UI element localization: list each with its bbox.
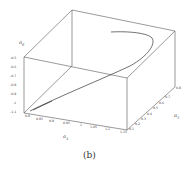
y-axis-label: a5 [174,112,180,120]
svg-text:0.9: 0.9 [49,119,54,123]
z-axis-label: a6 [19,39,25,47]
svg-text:0.6: 0.6 [159,101,164,105]
svg-text:-0.9: -0.9 [10,92,16,96]
svg-text:-0.6: -0.6 [10,65,16,69]
svg-text:1.05: 1.05 [90,125,97,129]
svg-text:-0.7: -0.7 [10,74,16,78]
svg-text:1.15: 1.15 [120,130,127,134]
svg-text:0.7: 0.7 [165,95,170,99]
svg-text:0.4: 0.4 [147,112,152,116]
svg-text:0.2: 0.2 [135,122,140,126]
svg-text:0.8: 0.8 [25,114,30,118]
svg-text:-0.8: -0.8 [10,83,16,87]
svg-text:-0.5: -0.5 [10,56,16,60]
figure-caption: (b) [83,150,96,160]
svg-text:-1.1: -1.1 [10,110,16,114]
z-axis-ticks: -0.5 -0.6 -0.7 -0.8 -0.9 -1 -1.1 [10,56,16,115]
svg-text:0.3: 0.3 [141,117,146,121]
x-axis-label: a4 [63,133,68,141]
svg-text:-1: -1 [13,101,16,105]
svg-text:0.95: 0.95 [63,121,70,125]
svg-text:0.1: 0.1 [129,127,134,131]
svg-text:1.1: 1.1 [105,127,110,131]
svg-text:0.8: 0.8 [176,86,181,90]
svg-text:0.5: 0.5 [153,106,158,110]
svg-text:0.85: 0.85 [36,117,43,121]
svg-text:1: 1 [80,123,82,127]
bounding-box [24,10,175,130]
x-axis-ticks: 0.8 0.85 0.9 0.95 1 1.05 1.1 1.15 [25,114,127,134]
plot-3d: -0.5 -0.6 -0.7 -0.8 -0.9 -1 -1.1 a6 0.8 … [0,0,191,169]
y-axis-ticks: 0.1 0.2 0.3 0.4 0.5 0.6 0.7 0.8 [129,86,181,131]
trajectory-curve [30,32,153,111]
